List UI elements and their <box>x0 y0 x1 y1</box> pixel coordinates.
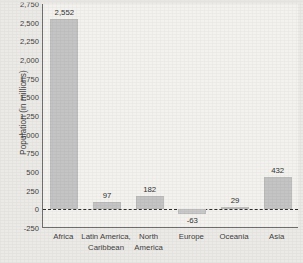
x-axis-category-line: Asia <box>247 232 303 243</box>
y-axis-tick-label: 2,000 <box>20 56 39 65</box>
y-axis-tick-label: 0 <box>35 205 39 214</box>
bar-value-label: 432 <box>271 166 284 175</box>
bar-value-label: 182 <box>143 185 156 194</box>
bar <box>136 196 164 210</box>
top-clipped-strip <box>0 0 303 3</box>
x-axis-category-label: Asia <box>247 232 303 243</box>
y-axis-tick-label: 2,250 <box>20 37 39 46</box>
bar-value-label: 97 <box>103 191 112 200</box>
x-axis-category-line: America <box>119 243 179 254</box>
y-axis-tick-label: 2,500 <box>20 18 39 27</box>
bar <box>93 202 121 209</box>
bar <box>50 19 78 210</box>
bar <box>221 207 249 209</box>
y-axis-tick-label: 1,000 <box>20 130 39 139</box>
y-axis-tick-label: 500 <box>26 168 39 177</box>
y-axis-tick-label: 1,750 <box>20 74 39 83</box>
zero-reference-line <box>43 209 298 210</box>
bar <box>178 209 206 214</box>
y-axis-tick-label: 1,250 <box>20 112 39 121</box>
y-axis-tick-label: 250 <box>26 186 39 195</box>
bar-value-label: 29 <box>231 196 240 205</box>
chart-figure: Population (in millions) 2,7502,5002,250… <box>0 0 303 263</box>
bar-value-label: 2,552 <box>55 8 75 17</box>
bar <box>264 177 292 209</box>
bar-value-label: -63 <box>187 216 198 225</box>
y-axis-tick-label: 750 <box>26 149 39 158</box>
plot-area: 2,7502,5002,2502,0001,7501,5001,2501,000… <box>42 4 298 228</box>
y-axis-tick-label: 1,500 <box>20 93 39 102</box>
